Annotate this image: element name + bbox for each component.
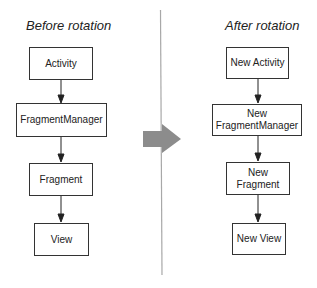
node-new-activity: New Activity bbox=[226, 47, 289, 79]
node-view: View bbox=[34, 223, 89, 256]
node-new-view: New View bbox=[232, 223, 286, 255]
transition-arrow-icon bbox=[143, 124, 181, 153]
node-label: Fragment bbox=[40, 174, 83, 186]
after-rotation-title: After rotation bbox=[225, 18, 299, 34]
node-activity: Activity bbox=[29, 47, 93, 80]
node-label: New Fragment bbox=[237, 167, 280, 191]
left-connectors bbox=[58, 80, 64, 222]
node-label: Activity bbox=[45, 58, 77, 70]
node-new-fragment-manager: New FragmentManager bbox=[212, 104, 302, 136]
node-label: New View bbox=[237, 233, 281, 245]
node-label: New Activity bbox=[231, 57, 285, 69]
node-fragment: Fragment bbox=[29, 163, 93, 196]
node-new-fragment: New Fragment bbox=[226, 162, 290, 195]
node-label: FragmentManager bbox=[20, 114, 102, 126]
node-label: View bbox=[51, 234, 73, 246]
right-connectors bbox=[255, 79, 261, 222]
before-rotation-title: Before rotation bbox=[26, 18, 111, 34]
node-label: New FragmentManager bbox=[216, 108, 298, 132]
node-fragment-manager: FragmentManager bbox=[16, 103, 107, 137]
